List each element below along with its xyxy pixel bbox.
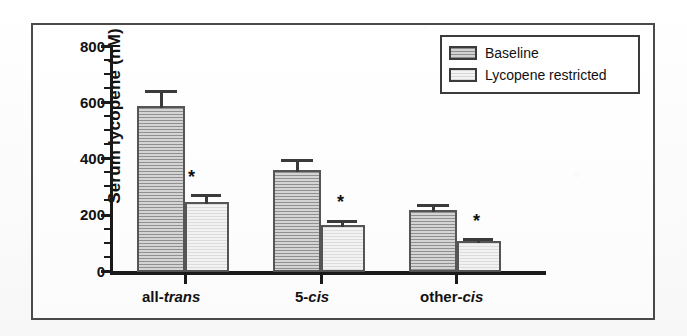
x-tick-label-5-cis-italic: cis [308, 288, 329, 305]
errorbar-cap-baseline-5-cis [281, 159, 313, 162]
x-tick-5-cis [320, 275, 323, 284]
significance-star-all-trans: * [188, 168, 195, 186]
errorbar-cap-restricted-other-cis [463, 238, 493, 241]
errorbar-cap-baseline-other-cis [417, 204, 449, 207]
errorbar-cap-restricted-all-trans [191, 194, 221, 197]
significance-star-other-cis: * [473, 212, 480, 230]
bar-baseline-5-cis[interactable] [273, 170, 321, 272]
bar-baseline-other-cis[interactable] [409, 210, 457, 272]
y-minor-tick-650 [104, 87, 111, 89]
x-tick-label-other-cis: other-cis [420, 288, 483, 305]
significance-star-5-cis: * [337, 193, 344, 211]
x-tick-label-all-trans-italic: trans [164, 288, 201, 305]
y-minor-tick-450 [104, 143, 111, 145]
y-major-tick-200 [101, 214, 111, 217]
bar-restricted-all-trans[interactable] [185, 202, 229, 272]
figure-page: Serum lycopene (nM) 800 600 400 200 0 [0, 0, 687, 336]
legend-item-restricted[interactable]: Lycopene restricted [449, 64, 631, 86]
y-major-tick-0 [101, 270, 111, 273]
x-tick-label-all-trans: all-trans [142, 288, 200, 305]
x-tick-label-all-trans-plain: all- [142, 288, 164, 305]
legend-label-baseline: Baseline [485, 45, 539, 61]
y-minor-tick-550 [104, 115, 111, 117]
bar-restricted-other-cis[interactable] [457, 241, 501, 272]
y-minor-tick-750 [104, 59, 111, 61]
restricted-swatch-icon [449, 68, 477, 82]
y-major-tick-400 [101, 157, 111, 160]
x-tick-other-cis [455, 275, 458, 284]
bar-restricted-5-cis[interactable] [321, 225, 365, 272]
y-minor-tick-300 [104, 185, 111, 187]
y-minor-tick-700 [104, 73, 111, 75]
legend: Baseline Lycopene restricted [440, 35, 640, 94]
y-minor-tick-50 [104, 256, 111, 258]
legend-label-restricted: Lycopene restricted [485, 67, 607, 83]
x-tick-label-5-cis-plain: 5- [295, 288, 308, 305]
legend-item-baseline[interactable]: Baseline [449, 42, 631, 64]
x-tick-label-other-cis-plain: other- [420, 288, 463, 305]
baseline-swatch-icon [449, 46, 477, 60]
x-tick-label-other-cis-italic: cis [463, 288, 484, 305]
y-minor-tick-100 [104, 242, 111, 244]
y-major-tick-600 [101, 101, 111, 104]
y-minor-tick-250 [104, 199, 111, 201]
y-minor-tick-350 [104, 171, 111, 173]
bar-baseline-all-trans[interactable] [137, 106, 185, 272]
y-major-tick-800 [101, 45, 111, 48]
errorbar-cap-baseline-all-trans [145, 90, 177, 93]
errorbar-cap-restricted-5-cis [327, 220, 357, 223]
x-tick-label-5-cis: 5-cis [295, 288, 329, 305]
y-minor-tick-500 [104, 129, 111, 131]
x-tick-all-trans [184, 275, 187, 284]
y-minor-tick-150 [104, 228, 111, 230]
